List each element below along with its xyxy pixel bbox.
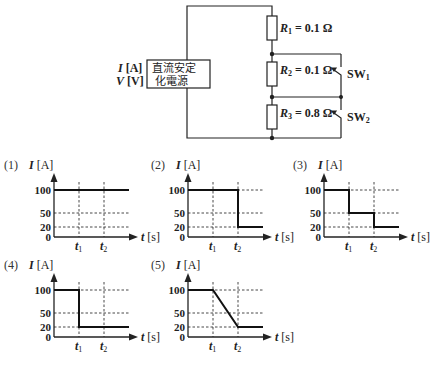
x-tick-label: t2	[100, 239, 107, 254]
graph-2: 10050200t1t2t[s](2)I[A]	[151, 158, 294, 254]
sw2-label: SW2	[347, 110, 370, 125]
y-axis-title: I[A]	[28, 258, 53, 272]
x-axis-arrow-icon	[263, 234, 272, 241]
graph-5: 10050200t1t2t[s](5)I[A]	[151, 258, 294, 354]
graph-number-label: (2)	[151, 158, 165, 172]
graph-number-label: (4)	[4, 258, 18, 272]
y-tick-label: 50	[40, 207, 52, 219]
wire-left-top	[187, 6, 272, 60]
y-axis-arrow-icon	[321, 173, 328, 182]
source-label-line2: 化電源	[155, 74, 188, 88]
voltage-label: V[V]	[116, 74, 144, 88]
x-axis-arrow-icon	[129, 334, 138, 341]
y-tick-label: 0	[316, 231, 322, 243]
r1-label: R1= 0.1 Ω	[279, 21, 333, 36]
switch-sw1	[332, 54, 341, 97]
x-tick-label: t2	[234, 339, 241, 354]
y-tick-label: 100	[35, 284, 52, 296]
resistor-r1	[267, 16, 277, 40]
x-tick-label: t1	[345, 239, 352, 254]
current-label: I[A]	[117, 61, 142, 75]
graphs: 10050200t1t2t[s](1)I[A]10050200t1t2t[s](…	[4, 158, 430, 354]
graph-number-label: (5)	[151, 258, 165, 272]
current-line	[188, 190, 263, 227]
x-tick-label: t1	[75, 339, 82, 354]
x-tick-label: t1	[75, 239, 82, 254]
y-tick-label: 100	[305, 184, 322, 196]
x-axis-title: t[s]	[411, 230, 430, 244]
x-tick-label: t2	[370, 239, 377, 254]
y-tick-label: 50	[40, 307, 52, 319]
x-axis-title: t[s]	[141, 230, 160, 244]
graph-1: 10050200t1t2t[s](1)I[A]	[4, 158, 160, 254]
junction-node	[270, 136, 273, 139]
y-axis-arrow-icon	[51, 173, 58, 182]
x-tick-label: t1	[209, 339, 216, 354]
y-tick-label: 100	[169, 284, 186, 296]
y-tick-label: 50	[174, 207, 186, 219]
sw1-label: SW1	[347, 67, 370, 82]
graph-4: 10050200t1t2t[s](4)I[A]	[4, 258, 160, 354]
x-tick-label: t1	[209, 239, 216, 254]
y-axis-arrow-icon	[185, 273, 192, 282]
resistor-r3	[267, 105, 277, 129]
y-tick-label: 100	[169, 184, 186, 196]
r2-label: R2= 0.1 Ω	[279, 63, 333, 78]
x-tick-label: t2	[100, 339, 107, 354]
x-tick-label: t2	[234, 239, 241, 254]
y-axis-arrow-icon	[185, 173, 192, 182]
r3-label: R3= 0.8 Ω	[279, 106, 333, 121]
y-axis-title: I[A]	[175, 158, 200, 172]
resistor-r2	[267, 62, 277, 86]
y-tick-label: 50	[174, 307, 186, 319]
y-axis-title: I[A]	[175, 258, 200, 272]
x-axis-title: t[s]	[275, 230, 294, 244]
graph-3: 10050200t1t2t[s](3)I[A]	[293, 158, 430, 254]
diagram-canvas: 直流安定 化電源 I[A] V[V] R1= 0.1 Ω R2= 0.1 Ω R…	[0, 0, 440, 377]
switch-sw2	[332, 97, 341, 138]
y-axis-arrow-icon	[51, 273, 58, 282]
x-axis-arrow-icon	[129, 234, 138, 241]
x-axis-title: t[s]	[275, 330, 294, 344]
y-tick-label: 0	[180, 231, 186, 243]
x-axis-arrow-icon	[263, 334, 272, 341]
y-tick-label: 0	[180, 331, 186, 343]
current-line	[54, 290, 129, 327]
graph-number-label: (3)	[293, 158, 307, 172]
y-tick-label: 100	[35, 184, 52, 196]
y-tick-label: 50	[310, 207, 322, 219]
current-line	[188, 290, 263, 327]
x-axis-title: t[s]	[141, 330, 160, 344]
graph-number-label: (1)	[4, 158, 18, 172]
y-tick-label: 0	[46, 231, 52, 243]
current-line	[324, 190, 399, 227]
y-axis-title: I[A]	[317, 158, 342, 172]
source-label-line1: 直流安定	[152, 61, 196, 75]
y-axis-title: I[A]	[28, 158, 53, 172]
x-axis-arrow-icon	[399, 234, 408, 241]
y-tick-label: 0	[46, 331, 52, 343]
